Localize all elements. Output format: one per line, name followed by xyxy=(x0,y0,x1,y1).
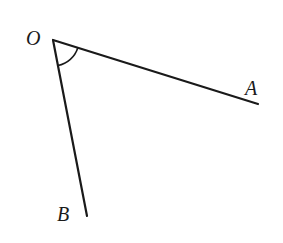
point-label-o: O xyxy=(26,27,40,49)
angle-diagram: O A B xyxy=(0,0,283,243)
diagram-canvas: O A B xyxy=(0,0,283,243)
ray-ob xyxy=(53,40,87,216)
ray-oa xyxy=(53,40,258,104)
point-label-a: A xyxy=(243,77,258,99)
point-label-b: B xyxy=(57,203,69,225)
angle-arc-mark xyxy=(58,48,78,66)
